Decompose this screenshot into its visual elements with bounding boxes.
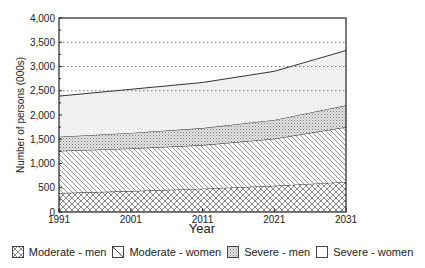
sparse-dots-swatch-icon [316, 246, 328, 258]
x-tick-label: 1991 [48, 214, 71, 225]
x-axis-title: Year [189, 221, 216, 236]
stacked-area-chart: 05001,0001,5002,0002,5003,0003,5004,000 … [0, 0, 425, 240]
legend-label: Severe - men [244, 246, 310, 258]
diagonal-swatch-icon [112, 246, 124, 258]
x-tick-label: 2001 [120, 214, 143, 225]
y-tick-label: 4,000 [30, 13, 55, 24]
area-layers [59, 51, 346, 213]
legend-item-moderate-women: Moderate - women [112, 246, 221, 258]
x-tick-label: 2021 [263, 214, 286, 225]
x-tick-label: 2031 [335, 214, 358, 225]
legend-item-moderate-men: Moderate - men [12, 246, 107, 258]
crosshatch-swatch-icon [12, 246, 24, 258]
y-tick-label: 1,500 [30, 134, 55, 145]
y-tick-label: 500 [38, 182, 55, 193]
y-axis-title: Number of persons (000s) [15, 57, 26, 173]
dense-dots-swatch-icon [227, 246, 239, 258]
y-tick-label: 3,500 [30, 37, 55, 48]
legend-item-severe-women: Severe - women [316, 246, 413, 258]
y-tick-label: 3,000 [30, 61, 55, 72]
y-tick-label: 2,000 [30, 110, 55, 121]
chart-legend: Moderate - men Moderate - women Severe -… [0, 241, 425, 263]
legend-item-severe-men: Severe - men [227, 246, 310, 258]
legend-label: Moderate - women [129, 246, 221, 258]
y-tick-label: 1,000 [30, 158, 55, 169]
y-axis: 05001,0001,5002,0002,5003,0003,5004,000 [30, 13, 62, 218]
legend-label: Severe - women [333, 246, 413, 258]
legend-label: Moderate - men [29, 246, 107, 258]
y-tick-label: 2,500 [30, 85, 55, 96]
